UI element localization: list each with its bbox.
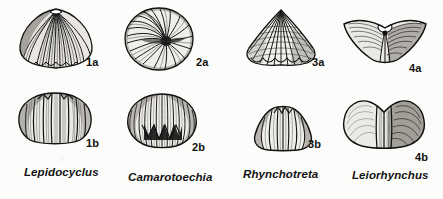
genus-label-leiorhynchus: Leiorhynchus — [352, 169, 429, 181]
specimen-4b — [336, 92, 432, 152]
figure-plate: 1a — [0, 0, 443, 199]
figure-number-3b: 3b — [308, 138, 321, 150]
genus-label-camarotoechia: Camarotoechia — [128, 171, 212, 183]
genus-label-lepidocyclus: Lepidocyclus — [24, 166, 99, 178]
figure-number-2b: 2b — [192, 141, 205, 153]
figure-number-4a: 4a — [409, 62, 422, 74]
specimen-2a — [122, 5, 196, 73]
figure-number-3a: 3a — [312, 56, 325, 68]
figure-number-1a: 1a — [86, 56, 99, 68]
specimen-4a — [338, 8, 432, 70]
specimen-1b — [14, 90, 96, 148]
figure-number-2a: 2a — [196, 56, 209, 68]
figure-number-4b: 4b — [415, 151, 428, 163]
genus-label-rhynchotreta: Rhynchotreta — [243, 168, 318, 180]
specimen-2b — [124, 92, 200, 150]
specimen-3a — [243, 8, 319, 70]
specimen-3b — [250, 105, 316, 153]
figure-number-1b: 1b — [86, 137, 99, 149]
